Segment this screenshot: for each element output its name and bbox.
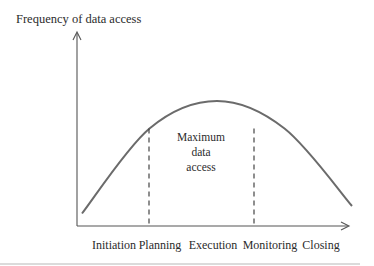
lifecycle-data-access-diagram: Frequency of data access Maximumdataacce… [0,0,374,266]
annotation-line: data [191,146,210,158]
y-axis-label: Frequency of data access [16,12,141,26]
x-tick-label-initiation: Initiation [92,238,136,252]
x-tick-label-planning: Planning [139,238,182,252]
x-tick-label-execution: Execution [189,238,238,252]
annotation-line: Maximum [177,131,225,143]
x-tick-label-monitoring: Monitoring [243,238,298,252]
x-tick-label-closing: Closing [302,238,339,252]
data-access-curve [82,101,352,214]
annotation-line: access [186,161,216,173]
